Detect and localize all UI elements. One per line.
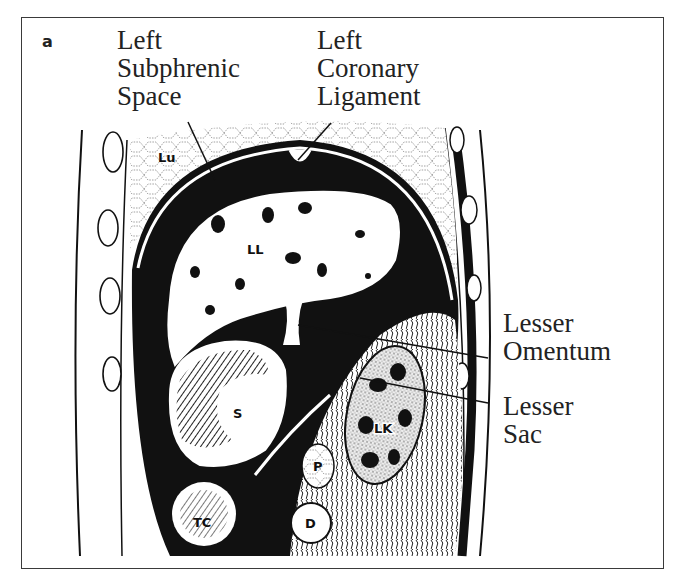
callout-lesser-omentum: Lesser Omentum xyxy=(503,309,611,365)
label-left-lobe-liver: LL xyxy=(247,242,264,257)
label-transverse-colon: TC xyxy=(193,515,211,530)
body-wall-left-inner xyxy=(121,140,127,556)
callout-left-subphrenic-space: Left Subphrenic Space xyxy=(117,26,240,110)
label-pancreas: P xyxy=(313,459,323,474)
panel-label: a xyxy=(42,32,53,51)
label-stomach: S xyxy=(233,406,242,421)
callout-left-coronary-ligament: Left Coronary Ligament xyxy=(317,26,420,110)
rib-icons-left xyxy=(98,132,123,391)
label-left-kidney: LK xyxy=(374,421,393,436)
body-wall-left-outer xyxy=(75,130,82,556)
label-duodenum: D xyxy=(305,516,316,531)
label-lung: Lu xyxy=(158,150,176,165)
body-wall-right-outer xyxy=(480,130,490,556)
callout-lesser-sac: Lesser Sac xyxy=(503,392,573,448)
